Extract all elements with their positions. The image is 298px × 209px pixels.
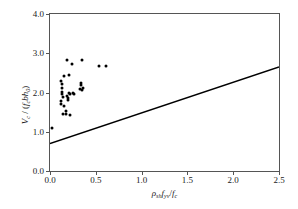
scatter-point: [60, 86, 63, 89]
scatter-point: [63, 104, 66, 107]
scatter-point: [51, 126, 54, 129]
plot-frame: 4.03.02.01.00.0 0.00.51.01.52.02.5: [49, 13, 280, 172]
x-tick-label: 0.0: [44, 175, 55, 185]
scatter-point: [59, 100, 62, 103]
scatter-point: [72, 93, 75, 96]
y-axis-title: Vc / (fcbh0): [20, 85, 31, 124]
y-tick: [46, 53, 50, 54]
y-tick: [46, 14, 50, 15]
y-axis-title-close-paren: ): [20, 85, 30, 88]
scatter-point: [68, 114, 71, 117]
x-tick-label: 1.5: [182, 175, 193, 185]
y-tick-label: 2.0: [33, 88, 44, 98]
y-axis-title-v: V: [20, 118, 30, 124]
scatter-point: [104, 65, 107, 68]
x-axis-title: ρshfyv/fc: [49, 188, 280, 199]
scatter-chart-figure: Vc / (fcbh0) ρshfyv/fc Vc / (fcbh0) =0.7…: [0, 0, 298, 209]
scatter-point: [81, 86, 84, 89]
scatter-point: [97, 65, 100, 68]
x-tick-label: 0.5: [90, 175, 101, 185]
plot-area: [50, 14, 279, 171]
scatter-point: [67, 99, 70, 102]
y-tick: [46, 132, 50, 133]
y-tick-label: 1.0: [33, 127, 44, 137]
scatter-point: [70, 63, 73, 66]
scatter-point: [62, 75, 65, 78]
y-axis-title-b: b: [20, 96, 30, 101]
scatter-point: [66, 58, 69, 61]
scatter-point: [80, 82, 83, 85]
scatter-point: [81, 58, 84, 61]
x-axis-title-fc-sub: c: [175, 193, 178, 199]
x-tick-label: 1.0: [136, 175, 147, 185]
scatter-point: [59, 103, 62, 106]
y-axis-title-slash: /: [20, 109, 30, 116]
scatter-point: [60, 82, 63, 85]
x-tick-label: 2.0: [228, 175, 239, 185]
fit-line: [50, 14, 279, 171]
x-tick-label: 2.5: [273, 175, 284, 185]
y-tick-label: 3.0: [33, 48, 44, 58]
scatter-point: [61, 113, 64, 116]
scatter-point: [68, 74, 71, 77]
y-tick: [46, 93, 50, 94]
y-tick-label: 0.0: [33, 166, 44, 176]
scatter-point: [61, 96, 64, 99]
scatter-point: [65, 109, 68, 112]
y-tick-label: 4.0: [33, 9, 44, 19]
